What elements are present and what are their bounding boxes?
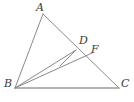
vertex-label-D: D <box>79 35 88 46</box>
vertex-label-C: C <box>121 78 129 89</box>
vertex-label-A: A <box>36 2 44 13</box>
vertex-label-B: B <box>4 78 12 89</box>
geometry-figure: A D F B C <box>0 0 134 102</box>
vertex-label-F: F <box>91 44 99 55</box>
segment-BD <box>15 50 76 88</box>
segment-AC <box>43 14 119 88</box>
figure-canvas <box>0 0 134 102</box>
